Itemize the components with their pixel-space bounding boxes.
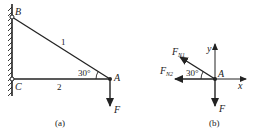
angle-arc-a: [96, 72, 98, 80]
label-fn1: FN1: [171, 46, 185, 58]
label-angle-b: 30°: [186, 68, 199, 78]
label-a-b: A: [217, 68, 225, 79]
label-b: B: [15, 6, 21, 17]
label-force-f: F: [113, 104, 121, 115]
figure-a: B C A 1 2 30° F (a): [8, 4, 121, 128]
label-c: C: [15, 81, 22, 92]
caption-b: (b): [209, 118, 220, 128]
angle-arc-b: [201, 72, 203, 80]
caption-a: (a): [55, 118, 65, 128]
figure-b: FN1 FN2 y x A 30° F (b): [159, 43, 246, 128]
label-rod-1: 1: [61, 37, 66, 47]
truss-diagram: B C A 1 2 30° F (a) FN1 FN2 y x A 30° F …: [0, 0, 254, 136]
label-fn2: FN2: [159, 65, 173, 77]
label-x: x: [237, 80, 243, 91]
label-force-f-b: F: [218, 103, 226, 114]
label-rod-2: 2: [57, 82, 62, 92]
pin-b: [10, 15, 14, 19]
label-y: y: [206, 43, 212, 54]
label-angle-a: 30°: [78, 68, 91, 78]
pin-c: [10, 77, 14, 81]
rod-1: [12, 17, 110, 79]
point-a-b: [213, 77, 217, 81]
label-a: A: [113, 72, 121, 83]
